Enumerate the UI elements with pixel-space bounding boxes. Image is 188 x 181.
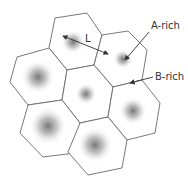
a-rich-label: A-rich [151, 20, 180, 31]
a-rich-core [21, 60, 55, 94]
a-rich-core [113, 49, 133, 69]
a-rich-core [119, 97, 147, 125]
a-rich-core [29, 107, 67, 145]
domain-diagram: L A-rich B-rich [0, 0, 188, 181]
b-rich-label: B-rich [155, 71, 184, 82]
a-rich-core [77, 127, 113, 163]
a-rich-core [61, 30, 85, 54]
a-rich-core [75, 83, 97, 105]
distance-label: L [85, 33, 91, 44]
